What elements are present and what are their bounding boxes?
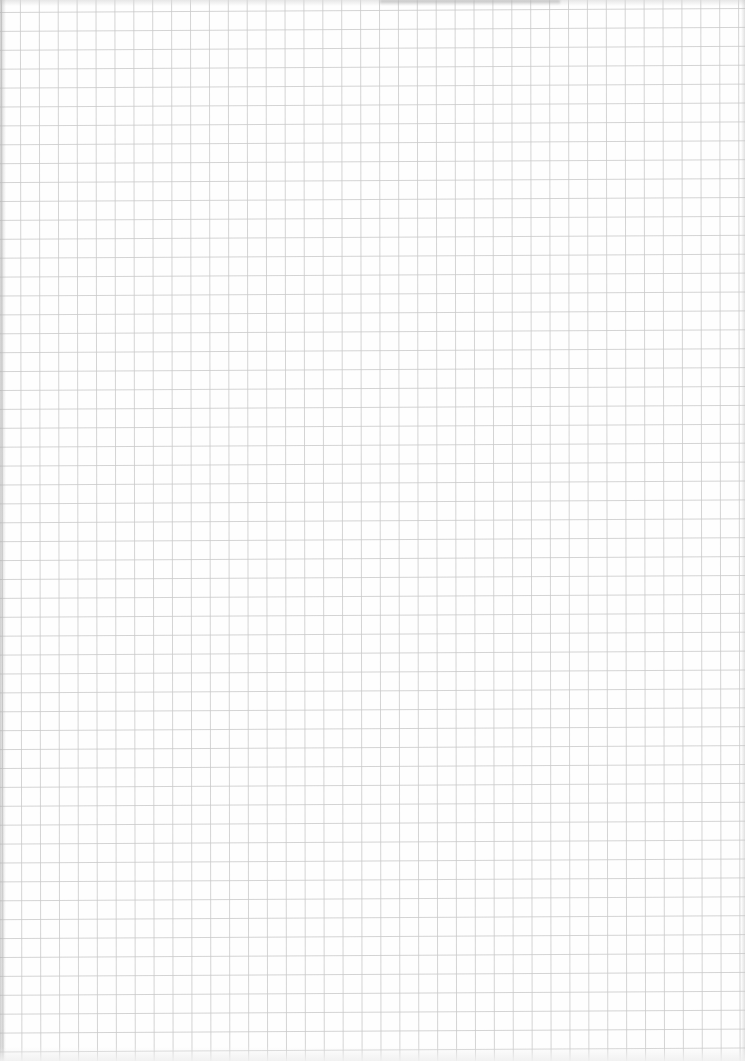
grid-horizontal-line (0, 462, 745, 466)
grid-horizontal-line (0, 708, 745, 712)
grid-horizontal-line (0, 387, 745, 391)
grid-vertical-line (682, 0, 684, 1061)
grid-horizontal-line (0, 311, 745, 315)
grid-horizontal-line (0, 349, 745, 353)
grid-horizontal-line (0, 670, 745, 674)
grid-horizontal-line (0, 405, 745, 409)
grid-vertical-line (474, 0, 476, 1061)
grid-horizontal-line (0, 651, 745, 655)
grid-horizontal-line (0, 1010, 745, 1014)
grid-vertical-line (550, 0, 552, 1061)
grid-horizontal-line (0, 424, 745, 428)
grid-horizontal-line (0, 916, 745, 920)
grid-vertical-line (323, 0, 325, 1061)
grid-horizontal-line (0, 27, 745, 31)
grid-horizontal-line (0, 330, 745, 334)
grid-horizontal-line (0, 765, 745, 769)
grid-horizontal-line (0, 576, 745, 580)
grid-vertical-line (209, 0, 211, 1061)
grid-vertical-line (398, 0, 400, 1061)
grid-horizontal-line (0, 198, 745, 202)
grid-vertical-line (134, 0, 136, 1061)
left-edge-shadow (0, 0, 6, 1061)
grid-horizontal-line (0, 557, 745, 561)
grid-horizontal-line (0, 235, 745, 239)
grid-vertical-line (663, 0, 665, 1061)
grid-horizontal-line (0, 46, 745, 50)
grid-horizontal-line (0, 689, 745, 693)
bottom-edge-fade (0, 1047, 745, 1061)
grid-vertical-line (285, 0, 287, 1061)
grid-vertical-line (512, 0, 514, 1061)
grid-vertical-line (58, 0, 60, 1061)
graph-paper-sheet (0, 0, 745, 1061)
grid-horizontal-line (0, 1029, 745, 1033)
grid-vertical-line (228, 0, 230, 1061)
grid-vertical-line (739, 0, 741, 1061)
grid-vertical-line (587, 0, 589, 1061)
grid-lines (0, 0, 745, 1061)
grid-vertical-line (115, 0, 117, 1061)
grid-horizontal-line (0, 481, 745, 485)
grid-horizontal-line (0, 519, 745, 523)
grid-vertical-line (266, 0, 268, 1061)
grid-horizontal-line (0, 84, 745, 88)
grid-horizontal-line (0, 613, 745, 617)
grid-horizontal-line (0, 65, 745, 69)
grid-horizontal-line (0, 859, 745, 863)
grid-horizontal-line (0, 443, 745, 447)
grid-vertical-line (380, 0, 382, 1061)
grid-vertical-line (247, 0, 249, 1061)
grid-vertical-line (153, 0, 155, 1061)
grid-horizontal-line (0, 991, 745, 995)
grid-vertical-line (625, 0, 627, 1061)
grid-horizontal-line (0, 727, 745, 731)
grid-vertical-line (493, 0, 495, 1061)
grid-horizontal-line (0, 141, 745, 145)
grid-vertical-line (569, 0, 571, 1061)
grid-horizontal-line (0, 746, 745, 750)
grid-vertical-line (720, 0, 722, 1061)
grid-vertical-line (701, 0, 703, 1061)
grid-horizontal-line (0, 103, 745, 107)
grid-vertical-line (644, 0, 646, 1061)
grid-vertical-line (20, 0, 22, 1061)
grid-vertical-line (172, 0, 174, 1061)
grid-vertical-line (436, 0, 438, 1061)
grid-vertical-line (304, 0, 306, 1061)
right-edge-shadow (741, 0, 745, 1061)
grid-vertical-line (77, 0, 79, 1061)
grid-horizontal-line (0, 935, 745, 939)
grid-horizontal-line (0, 9, 745, 13)
grid-horizontal-line (0, 840, 745, 844)
grid-horizontal-line (0, 594, 745, 598)
grid-vertical-line (531, 0, 533, 1061)
grid-vertical-line (361, 0, 363, 1061)
grid-horizontal-line (0, 897, 745, 901)
grid-horizontal-line (0, 216, 745, 220)
grid-vertical-line (606, 0, 608, 1061)
grid-horizontal-line (0, 802, 745, 806)
grid-vertical-line (96, 0, 98, 1061)
grid-vertical-line (39, 0, 41, 1061)
grid-horizontal-line (0, 292, 745, 296)
grid-horizontal-line (0, 538, 745, 542)
grid-horizontal-line (0, 500, 745, 504)
grid-horizontal-line (0, 821, 745, 825)
grid-horizontal-line (0, 878, 745, 882)
grid-vertical-line (342, 0, 344, 1061)
grid-vertical-line (417, 0, 419, 1061)
grid-horizontal-line (0, 368, 745, 372)
grid-horizontal-line (0, 179, 745, 183)
grid-horizontal-line (0, 273, 745, 277)
grid-horizontal-line (0, 254, 745, 258)
top-edge-shadow (0, 0, 745, 6)
grid-horizontal-line (0, 972, 745, 976)
grid-horizontal-line (0, 783, 745, 787)
grid-horizontal-line (0, 122, 745, 126)
grid-horizontal-line (0, 954, 745, 958)
grid-horizontal-line (0, 160, 745, 164)
grid-horizontal-line (0, 632, 745, 636)
grid-vertical-line (455, 0, 457, 1061)
top-scan-shadow (380, 0, 560, 5)
